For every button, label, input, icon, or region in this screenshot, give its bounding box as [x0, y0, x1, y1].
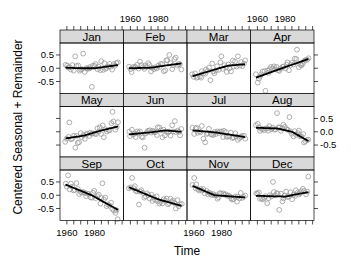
y-tick-label: 0.0: [320, 126, 333, 137]
data-point: [101, 135, 106, 140]
panel-apr: Apr: [251, 30, 315, 94]
strip-label-apr: Apr: [273, 31, 291, 43]
data-point: [100, 181, 105, 186]
strip-label-aug: Aug: [272, 94, 292, 106]
data-point: [179, 67, 184, 72]
x-tick-label: 1980: [147, 13, 168, 24]
y-tick-label: 0.5: [41, 49, 54, 60]
data-point: [199, 75, 204, 80]
x-tick-label: 1960: [120, 13, 141, 24]
data-point: [275, 111, 280, 116]
data-point: [167, 53, 172, 58]
data-point: [74, 181, 79, 186]
x-tick-label: 1960: [247, 13, 268, 24]
panel-nov: Nov: [187, 157, 251, 221]
y-tick-label: 0.0: [41, 190, 54, 201]
y-tick-label: 0.5: [41, 176, 54, 187]
y-axis-title: Centered Seasonal + Remainder: [11, 39, 25, 214]
panel-may: May: [60, 94, 124, 158]
x-axis-title: Time: [174, 244, 201, 258]
data-point: [89, 84, 94, 89]
data-point: [142, 145, 147, 150]
x-tick-label: 1960: [183, 227, 204, 238]
y-tick-label: 0.5: [320, 113, 333, 124]
data-point: [137, 202, 142, 207]
y-tick-label: -0.5: [320, 139, 336, 150]
strip-label-jul: Jul: [211, 94, 226, 106]
data-point: [207, 126, 212, 131]
data-point: [66, 173, 71, 178]
strip-label-jun: Jun: [146, 94, 165, 106]
data-point: [116, 120, 121, 125]
strip-label-nov: Nov: [209, 158, 230, 170]
strip-label-jan: Jan: [82, 31, 101, 43]
data-point: [235, 199, 240, 204]
data-point: [73, 54, 78, 59]
panel-jul: Jul: [187, 94, 251, 158]
panel-mar: Mar: [187, 30, 251, 94]
data-point: [173, 55, 178, 60]
strip-label-sep: Sep: [82, 158, 102, 170]
data-point: [306, 174, 311, 179]
data-point: [110, 109, 115, 114]
data-point: [208, 78, 213, 83]
panel-oct: Oct: [124, 157, 188, 221]
y-tick-label: -0.5: [38, 76, 54, 87]
data-point: [163, 68, 168, 73]
strip-label-feb: Feb: [145, 31, 165, 43]
data-point: [287, 115, 292, 120]
panel-frame-jul: [187, 107, 251, 158]
x-tick-label: 1980: [84, 227, 105, 238]
data-point: [277, 207, 282, 212]
stl-seasonal-lattice-chart: JanFebMarAprMayJunJulAugSepOctNovDec 196…: [0, 0, 351, 273]
data-point: [265, 201, 270, 206]
data-point: [271, 180, 276, 185]
panels-group: JanFebMarAprMayJunJulAugSepOctNovDec: [60, 30, 314, 222]
strip-label-may: May: [81, 94, 103, 106]
y-tick-label: -0.5: [38, 203, 54, 214]
data-point: [130, 176, 135, 181]
panel-dec: Dec: [251, 157, 315, 221]
trend-line-sep: [66, 185, 118, 210]
data-point: [210, 61, 215, 66]
data-point: [129, 70, 134, 75]
panel-sep: Sep: [60, 157, 124, 222]
data-point: [236, 54, 241, 59]
panel-jan: Jan: [60, 30, 124, 94]
strip-label-oct: Oct: [146, 158, 165, 170]
data-point: [81, 51, 86, 56]
data-point: [115, 217, 120, 222]
panel-feb: Feb: [124, 30, 188, 94]
strip-label-mar: Mar: [209, 31, 229, 43]
y-tick-label: 0.0: [41, 63, 54, 74]
strip-label-dec: Dec: [272, 158, 293, 170]
x-tick-label: 1980: [211, 227, 232, 238]
data-point: [67, 120, 72, 125]
panel-jun: Jun: [124, 94, 188, 158]
data-point: [73, 145, 78, 150]
data-point: [192, 176, 197, 181]
data-point: [263, 88, 268, 93]
data-point: [199, 124, 204, 129]
data-point: [172, 57, 177, 62]
x-tick-label: 1980: [274, 13, 295, 24]
data-point: [219, 54, 224, 59]
data-point: [280, 199, 285, 204]
data-point: [63, 139, 68, 144]
data-point: [172, 119, 177, 124]
x-tick-label: 1960: [56, 227, 77, 238]
panel-aug: Aug: [251, 94, 315, 158]
data-point: [302, 140, 307, 145]
data-point: [295, 47, 300, 52]
